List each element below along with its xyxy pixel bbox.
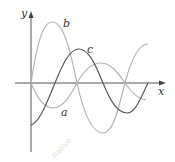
y-axis-label: y — [20, 7, 28, 20]
y-axis-arrow-icon — [29, 11, 34, 18]
axes — [15, 11, 166, 152]
watermark: native — [50, 136, 74, 160]
chart-figure: y x b c a native — [0, 0, 175, 162]
curve-c — [31, 49, 148, 125]
x-axis-label: x — [158, 85, 165, 98]
curve-a-label: a — [61, 106, 68, 119]
curve-b-label: b — [63, 17, 70, 30]
curve-c-label: c — [87, 43, 93, 56]
curve-b — [31, 22, 148, 133]
